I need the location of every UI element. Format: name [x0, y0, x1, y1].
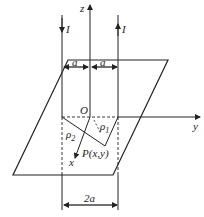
y-axis-label: y [192, 120, 198, 132]
rho1-label: ρ1 [99, 120, 109, 135]
dim-a-left: a [72, 56, 78, 68]
left-wire-current-label: I [65, 23, 71, 35]
dim-a-right: a [100, 56, 106, 68]
point-p-label: P(x,y) [81, 147, 109, 160]
right-wire-current-label: I [121, 23, 127, 35]
two-wire-field-diagram: z I I a a y O x ρ1 ρ2 P(x,y) [0, 0, 204, 217]
dimension-2a: 2a [64, 192, 117, 205]
rho2-label: ρ2 [65, 128, 75, 143]
z-axis-label: z [79, 2, 85, 14]
right-wire: I [118, 15, 127, 210]
left-wire: I [62, 15, 71, 210]
origin-label: O [80, 104, 88, 116]
x-axis-label: x [68, 156, 74, 168]
dim-2a: 2a [84, 192, 96, 204]
